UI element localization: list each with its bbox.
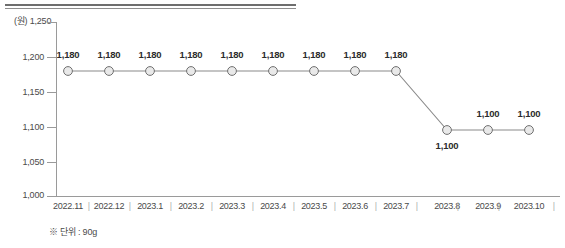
data-point-marker[interactable] — [443, 126, 452, 135]
x-label-separator: | — [455, 201, 461, 211]
point-label: 1,180 — [89, 49, 129, 60]
x-label-separator: | — [414, 201, 420, 211]
x-tick-label-2022-12: 2022.12 — [86, 201, 132, 211]
y-tick-label-1000: 1,000 — [6, 190, 44, 200]
x-tick-label-2023-8: 2023.8 — [424, 201, 470, 211]
point-label: 1,100 — [468, 108, 508, 119]
x-tick-label-2023-1: 2023.1 — [127, 201, 173, 211]
data-point-marker[interactable] — [525, 126, 534, 135]
x-label-separator: | — [291, 201, 297, 211]
line-chart: (원) 1,250 — [0, 0, 565, 248]
point-label: 1,180 — [212, 49, 252, 60]
x-tick-label-2023-6: 2023.6 — [332, 201, 378, 211]
x-tick-label-2023-10: 2023.10 — [506, 201, 552, 211]
x-label-separator: | — [551, 201, 557, 211]
point-label: 1,180 — [48, 49, 88, 60]
x-tick-label-2023-9: 2023.9 — [465, 201, 511, 211]
x-label-separator: | — [250, 201, 256, 211]
point-label: 1,180 — [130, 49, 170, 60]
y-tick-label-1150: 1,150 — [6, 87, 44, 97]
data-point-marker[interactable] — [187, 67, 196, 76]
x-tick-label-2023-2: 2023.2 — [168, 201, 214, 211]
y-tick-label-1050: 1,050 — [6, 157, 44, 167]
data-point-marker[interactable] — [392, 67, 401, 76]
x-label-separator: | — [209, 201, 215, 211]
x-label-separator: | — [373, 201, 379, 211]
x-tick-label-2022-11: 2022.11 — [45, 201, 91, 211]
x-label-separator: | — [496, 201, 502, 211]
x-label-separator: | — [168, 201, 174, 211]
x-tick-label-2023-7: 2023.7 — [373, 201, 419, 211]
chart-footnote: ※ 단위 : 90g — [49, 225, 97, 238]
data-point-marker[interactable] — [351, 67, 360, 76]
x-tick-label-2023-5: 2023.5 — [291, 201, 337, 211]
data-point-marker[interactable] — [484, 126, 493, 135]
point-label: 1,180 — [376, 49, 416, 60]
point-label: 1,180 — [335, 49, 375, 60]
data-point-markers — [64, 67, 534, 135]
y-tick-label-1200: 1,200 — [6, 52, 44, 62]
y-tick-label-1100: 1,100 — [6, 122, 44, 132]
data-point-marker[interactable] — [310, 67, 319, 76]
x-tick-label-2023-4: 2023.4 — [250, 201, 296, 211]
data-point-marker[interactable] — [64, 67, 73, 76]
data-point-marker[interactable] — [105, 67, 114, 76]
data-point-marker[interactable] — [228, 67, 237, 76]
point-label: 1,100 — [427, 140, 467, 151]
x-label-separator: | — [86, 201, 92, 211]
point-label: 1,180 — [294, 49, 334, 60]
data-series-line — [68, 71, 529, 130]
x-tick-label-2023-3: 2023.3 — [209, 201, 255, 211]
point-label: 1,180 — [171, 49, 211, 60]
x-label-separator: | — [127, 201, 133, 211]
data-point-marker[interactable] — [269, 67, 278, 76]
data-point-marker[interactable] — [146, 67, 155, 76]
point-label: 1,180 — [253, 49, 293, 60]
x-label-separator: | — [332, 201, 338, 211]
point-label: 1,100 — [509, 108, 549, 119]
